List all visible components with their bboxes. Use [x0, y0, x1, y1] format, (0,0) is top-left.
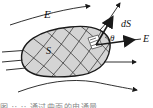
label-ds: dS [121, 19, 131, 29]
label-e-field: E [44, 9, 51, 20]
field-line-left-3 [6, 68, 26, 70]
flux-diagram-svg [0, 0, 153, 108]
figure-caption: 图 ·· ·· 通过曲面的电通量 [0, 101, 153, 108]
label-surface-s: S [46, 46, 51, 56]
e-field-line-continue [133, 39, 141, 40]
closed-surface-s [22, 26, 111, 77]
label-theta: θ [110, 34, 114, 43]
label-e-right: E [143, 34, 149, 44]
field-line-left-2 [2, 60, 24, 62]
field-line-upper-right [100, 3, 120, 30]
flux-diagram: E dS θ E S 图 ·· ·· 通过曲面的电通量 [0, 0, 153, 108]
field-line-bottom [18, 80, 137, 92]
